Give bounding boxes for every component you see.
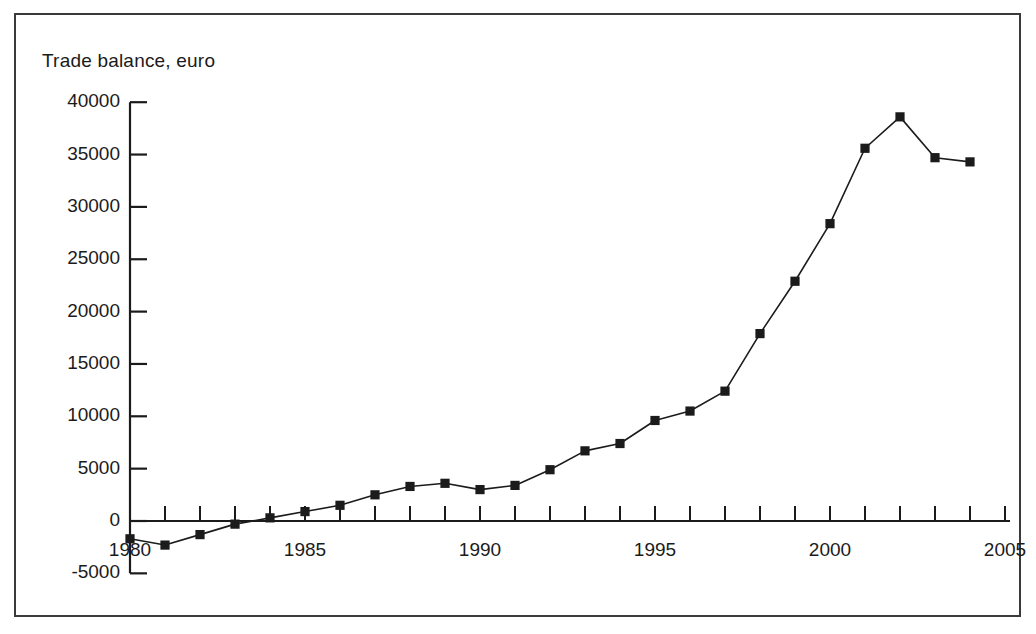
y-tick-label--5000: -5000 [71, 561, 120, 583]
y-tick-label-5000: 5000 [78, 457, 120, 479]
data-point-1994 [615, 439, 624, 448]
data-point-2002 [895, 112, 904, 121]
y-tick-label-20000: 20000 [67, 300, 120, 322]
y-tick-label-30000: 30000 [67, 195, 120, 217]
y-tick-label-40000: 40000 [67, 90, 120, 112]
data-point-1988 [405, 482, 414, 491]
data-point-1983 [230, 520, 239, 529]
y-tick-label-15000: 15000 [67, 352, 120, 374]
data-point-2000 [825, 219, 834, 228]
data-point-1995 [650, 416, 659, 425]
data-point-1999 [790, 277, 799, 286]
data-point-1991 [510, 481, 519, 490]
y-tick-label-25000: 25000 [67, 247, 120, 269]
x-tick-label-1990: 1990 [450, 539, 510, 561]
data-point-1982 [195, 530, 204, 539]
x-tick-label-2005: 2005 [975, 539, 1035, 561]
axis-lines [130, 102, 1010, 573]
y-tick-label-35000: 35000 [67, 143, 120, 165]
data-point-2004 [965, 157, 974, 166]
data-series-markers [125, 112, 974, 549]
y-tick-label-10000: 10000 [67, 404, 120, 426]
y-axis-ticks [130, 102, 147, 573]
chart-figure: Trade balance, euro -5000050001000015000… [0, 0, 1036, 634]
data-point-1984 [265, 513, 274, 522]
y-tick-label-0: 0 [109, 509, 120, 531]
data-point-1992 [545, 465, 554, 474]
data-series-line [130, 117, 970, 545]
data-point-1990 [475, 485, 484, 494]
x-tick-label-1995: 1995 [625, 539, 685, 561]
data-point-1993 [580, 446, 589, 455]
data-point-1985 [300, 507, 309, 516]
data-point-2001 [860, 144, 869, 153]
data-point-1997 [720, 387, 729, 396]
data-point-1989 [440, 479, 449, 488]
data-point-1981 [160, 540, 169, 549]
data-point-1998 [755, 329, 764, 338]
x-tick-label-1985: 1985 [275, 539, 335, 561]
x-tick-label-1980: 1980 [100, 539, 160, 561]
data-point-1986 [335, 501, 344, 510]
data-point-2003 [930, 153, 939, 162]
data-point-1987 [370, 490, 379, 499]
x-tick-label-2000: 2000 [800, 539, 860, 561]
data-point-1996 [685, 406, 694, 415]
